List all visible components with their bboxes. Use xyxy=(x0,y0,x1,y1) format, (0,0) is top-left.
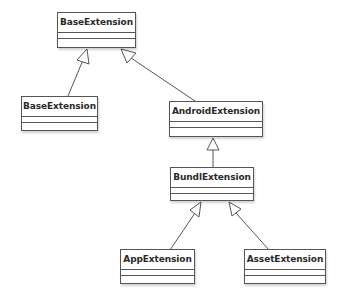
generalization-arrow xyxy=(207,138,219,167)
class-name: BaseExtension xyxy=(58,13,135,33)
uml-diagram-canvas: BaseExtension BaseExtension AndroidExten… xyxy=(0,0,345,304)
class-box-asset-extension[interactable]: AssetExtension xyxy=(244,249,326,284)
operations-compartment xyxy=(171,194,253,201)
class-name: AppExtension xyxy=(121,250,194,270)
generalization-arrow xyxy=(170,202,201,250)
generalization-arrow xyxy=(121,49,195,101)
class-name: AndroidExtension xyxy=(170,102,262,122)
class-box-android-extension[interactable]: AndroidExtension xyxy=(169,101,263,137)
class-box-base-extension-parent[interactable]: BaseExtension xyxy=(57,12,136,48)
operations-compartment xyxy=(121,276,194,283)
operations-compartment xyxy=(245,276,325,283)
class-name: BundlExtension xyxy=(171,168,253,188)
generalization-arrow xyxy=(68,49,89,96)
class-box-base-extension-child[interactable]: BaseExtension xyxy=(21,96,98,131)
class-box-app-extension[interactable]: AppExtension xyxy=(120,249,195,284)
operations-compartment xyxy=(22,123,97,130)
operations-compartment xyxy=(58,39,135,46)
class-name: AssetExtension xyxy=(245,250,325,270)
operations-compartment xyxy=(170,128,262,135)
class-name: BaseExtension xyxy=(22,97,97,117)
class-box-bundl-extension[interactable]: BundlExtension xyxy=(170,167,254,201)
generalization-arrow xyxy=(229,202,269,250)
